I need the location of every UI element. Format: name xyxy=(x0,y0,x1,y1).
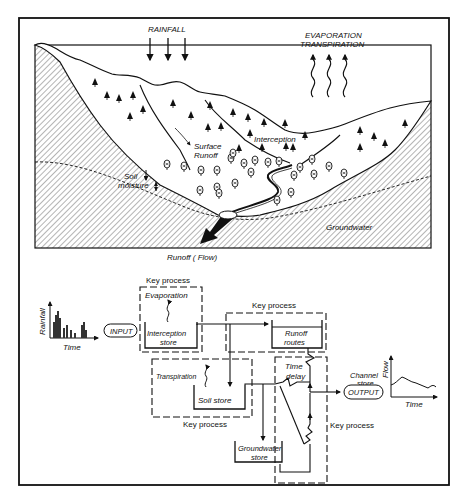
rainfall-input-chart: Rainfall Time xyxy=(38,302,98,352)
key-process-label-1: Key process xyxy=(146,276,190,285)
key-process-label-3: Key process xyxy=(183,420,227,429)
key-process-box-soil xyxy=(152,359,252,417)
key-process-label-4: Key process xyxy=(330,421,374,430)
time-delay-label-1: Time xyxy=(285,362,303,371)
hydrology-diagram: RAINFALL EVAPORATION TRANSPIRATION Inter… xyxy=(0,0,465,502)
evaporation-arrows xyxy=(311,55,346,97)
runoff-flow-label: Runoff ( Flow) xyxy=(167,253,218,262)
rainfall-axis-label: Rainfall xyxy=(38,308,47,335)
flow-output-chart: Flow Time xyxy=(381,356,437,409)
interception-store-label-1: Interception xyxy=(147,329,186,338)
rainfall-arrows xyxy=(150,38,185,60)
input-label: INPUT xyxy=(110,327,134,336)
evaporation-label: EVAPORATION xyxy=(305,31,362,40)
key-process-label-2: Key process xyxy=(252,301,296,310)
output-label: OUTPUT xyxy=(348,388,380,397)
groundwater-store-label-1: Groundwater xyxy=(238,444,282,453)
interception-store-label-2: store xyxy=(160,338,177,347)
soil-store-label: Soil store xyxy=(198,396,232,405)
time-axis-label-input: Time xyxy=(63,343,81,352)
surface-runoff-label-1: Surface xyxy=(194,142,222,151)
flow-axis-label: Flow xyxy=(381,360,390,378)
time-axis-label-output: Time xyxy=(405,400,423,409)
runoff-routes-label-1: Runoff xyxy=(285,329,308,338)
groundwater-store-label-2: store xyxy=(251,453,268,462)
conceptual-model: Rainfall Time INPUT Key process Evaporat… xyxy=(38,276,437,483)
evaporation-model-label: Evaporation xyxy=(145,291,188,300)
key-process-box-runoff xyxy=(226,313,326,352)
rainfall-label: RAINFALL xyxy=(148,25,186,34)
runoff-routes-label-2: routes xyxy=(284,338,305,347)
interception-label: Interception xyxy=(254,135,296,144)
soil-moisture-label-1: Soil xyxy=(124,172,138,181)
groundwater-label: Groundwater xyxy=(326,223,373,232)
transpiration-model-label: Transpiration xyxy=(156,373,196,381)
soil-moisture-label-2: moisture xyxy=(118,181,149,190)
surface-runoff-label-2: Runoff xyxy=(194,151,218,160)
time-delay-label-2: delay xyxy=(286,372,306,381)
transpiration-label: TRANSPIRATION xyxy=(300,40,365,49)
landscape-illustration: RAINFALL EVAPORATION TRANSPIRATION Inter… xyxy=(35,25,431,262)
